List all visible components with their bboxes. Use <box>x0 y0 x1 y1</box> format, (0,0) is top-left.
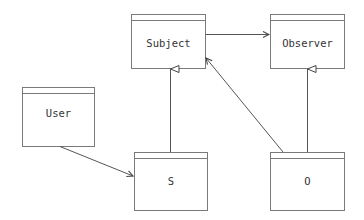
class-user[interactable]: User <box>23 88 95 147</box>
class-o[interactable]: O <box>271 153 345 211</box>
edge-user-to-s <box>60 147 133 177</box>
class-s-label: S <box>168 175 174 187</box>
edge-o-to-subject <box>206 58 283 152</box>
class-user-label: User <box>46 107 71 119</box>
class-o-label: O <box>304 175 310 187</box>
class-observer[interactable]: Observer <box>271 15 345 69</box>
class-subject[interactable]: Subject <box>132 15 206 69</box>
class-s[interactable]: S <box>135 153 208 211</box>
class-subject-label: Subject <box>146 37 190 49</box>
class-diagram-canvas: Subject Observer User S O <box>0 0 364 220</box>
class-observer-label: Observer <box>282 37 333 49</box>
